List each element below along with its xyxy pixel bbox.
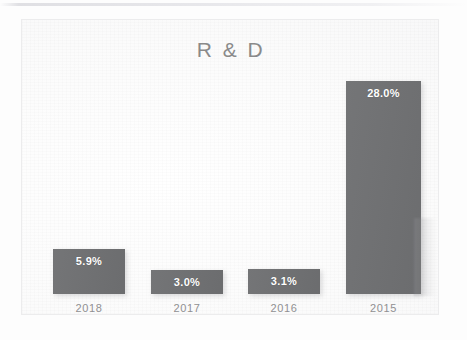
bar-slot-2015: 28.0% 2015 — [346, 62, 421, 294]
bar-column-2016: 3.1% — [248, 269, 320, 294]
category-label-2017: 2017 — [151, 302, 223, 314]
chart-frame: R & D 5.9% 2018 3.0% 2017 — [21, 19, 439, 315]
chart-title: R & D — [22, 38, 440, 62]
bar-value-label: 5.9% — [76, 255, 102, 267]
scan-artifact-line — [0, 3, 467, 6]
bar-value-label: 3.1% — [271, 275, 297, 287]
bar-2016[interactable]: 3.1% — [248, 269, 320, 294]
bar-slot-2018: 5.9% 2018 — [53, 62, 125, 294]
bar-column-2015: 28.0% — [346, 81, 421, 294]
bar-2018[interactable]: 5.9% — [53, 249, 125, 294]
category-label-2018: 2018 — [53, 302, 125, 314]
category-label-2016: 2016 — [248, 302, 320, 314]
bar-value-label: 3.0% — [174, 276, 200, 288]
scanned-page: R & D 5.9% 2018 3.0% 2017 — [0, 0, 467, 340]
bar-column-2018: 5.9% — [53, 249, 125, 294]
bar-value-label: 28.0% — [367, 87, 400, 99]
bar-slot-2016: 3.1% 2016 — [248, 62, 320, 294]
bar-2017[interactable]: 3.0% — [151, 270, 223, 294]
bar-slot-2017: 3.0% 2017 — [151, 62, 223, 294]
bar-column-2017: 3.0% — [151, 270, 223, 294]
category-label-2015: 2015 — [346, 302, 421, 314]
bar-2015[interactable]: 28.0% — [346, 81, 421, 294]
plot-area: 5.9% 2018 3.0% 2017 3.1% — [30, 62, 432, 294]
